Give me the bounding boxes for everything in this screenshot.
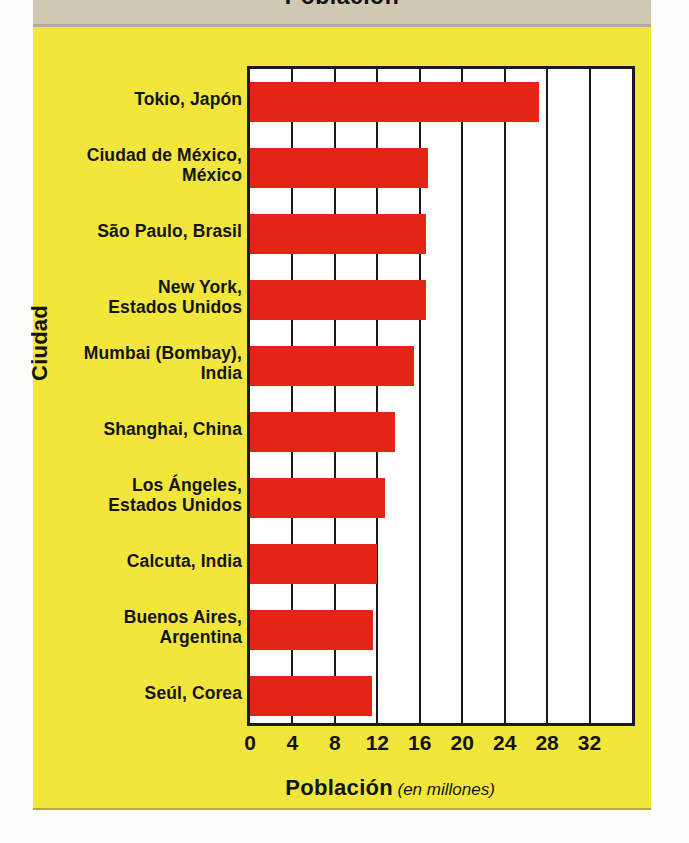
x-tick-label: 24 xyxy=(485,731,525,755)
category-label-line: Shanghai, China xyxy=(60,419,242,439)
x-axis-title-note: (en millones) xyxy=(397,780,494,799)
x-tick-label: 8 xyxy=(315,731,355,755)
gridline-28 xyxy=(546,69,548,723)
x-axis-tick-labels: 048121620242832 xyxy=(247,731,635,761)
header-band: Población xyxy=(33,0,651,27)
gridline-20 xyxy=(461,69,463,723)
bar xyxy=(250,478,385,518)
category-label: Tokio, Japón xyxy=(60,89,242,109)
category-label: Shanghai, China xyxy=(60,419,242,439)
category-label-line: Seúl, Corea xyxy=(60,683,242,703)
category-label: New York,Estados Unidos xyxy=(60,277,242,317)
category-label-line: Estados Unidos xyxy=(60,495,242,515)
bar xyxy=(250,346,414,386)
y-axis-title: Ciudad xyxy=(27,288,53,398)
category-label-line: São Paulo, Brasil xyxy=(60,221,242,241)
x-axis-title-main: Población xyxy=(285,775,393,800)
category-label: Calcuta, India xyxy=(60,551,242,571)
bar xyxy=(250,280,426,320)
x-tick-label: 20 xyxy=(442,731,482,755)
x-tick-label: 32 xyxy=(570,731,610,755)
category-label-line: India xyxy=(60,363,242,383)
category-label-line: Calcuta, India xyxy=(60,551,242,571)
category-label: São Paulo, Brasil xyxy=(60,221,242,241)
category-label-line: Los Ángeles, xyxy=(60,475,242,495)
x-tick-label: 12 xyxy=(357,731,397,755)
category-label: Seúl, Corea xyxy=(60,683,242,703)
category-label: Buenos Aires,Argentina xyxy=(60,607,242,647)
x-tick-label: 4 xyxy=(272,731,312,755)
x-tick-label: 28 xyxy=(527,731,567,755)
category-label-line: Mumbai (Bombay), xyxy=(60,343,242,363)
x-tick-label: 0 xyxy=(230,731,270,755)
x-axis-title: Población (en millones) xyxy=(150,775,630,801)
category-label-line: México xyxy=(60,165,242,185)
category-label-line: Ciudad de México, xyxy=(60,145,242,165)
gridline-24 xyxy=(504,69,506,723)
bar xyxy=(250,412,395,452)
category-label-line: New York, xyxy=(60,277,242,297)
category-label-line: Tokio, Japón xyxy=(60,89,242,109)
bar xyxy=(250,214,426,254)
x-tick-label: 16 xyxy=(400,731,440,755)
bar xyxy=(250,148,428,188)
gridline-32 xyxy=(589,69,591,723)
category-label-list: Tokio, JapónCiudad de México,MéxicoSão P… xyxy=(60,66,242,726)
category-label: Los Ángeles,Estados Unidos xyxy=(60,475,242,515)
plot-area xyxy=(247,66,635,726)
category-label-line: Buenos Aires, xyxy=(60,607,242,627)
category-label-line: Estados Unidos xyxy=(60,297,242,317)
bar xyxy=(250,544,377,584)
bar xyxy=(250,610,373,650)
category-label: Ciudad de México,México xyxy=(60,145,242,185)
bar xyxy=(250,82,539,122)
category-label: Mumbai (Bombay),India xyxy=(60,343,242,383)
page-background: Población Ciudad Tokio, JapónCiudad de M… xyxy=(0,0,689,843)
page-title-clipped: Población xyxy=(33,0,651,10)
bar xyxy=(250,676,372,716)
category-label-line: Argentina xyxy=(60,627,242,647)
